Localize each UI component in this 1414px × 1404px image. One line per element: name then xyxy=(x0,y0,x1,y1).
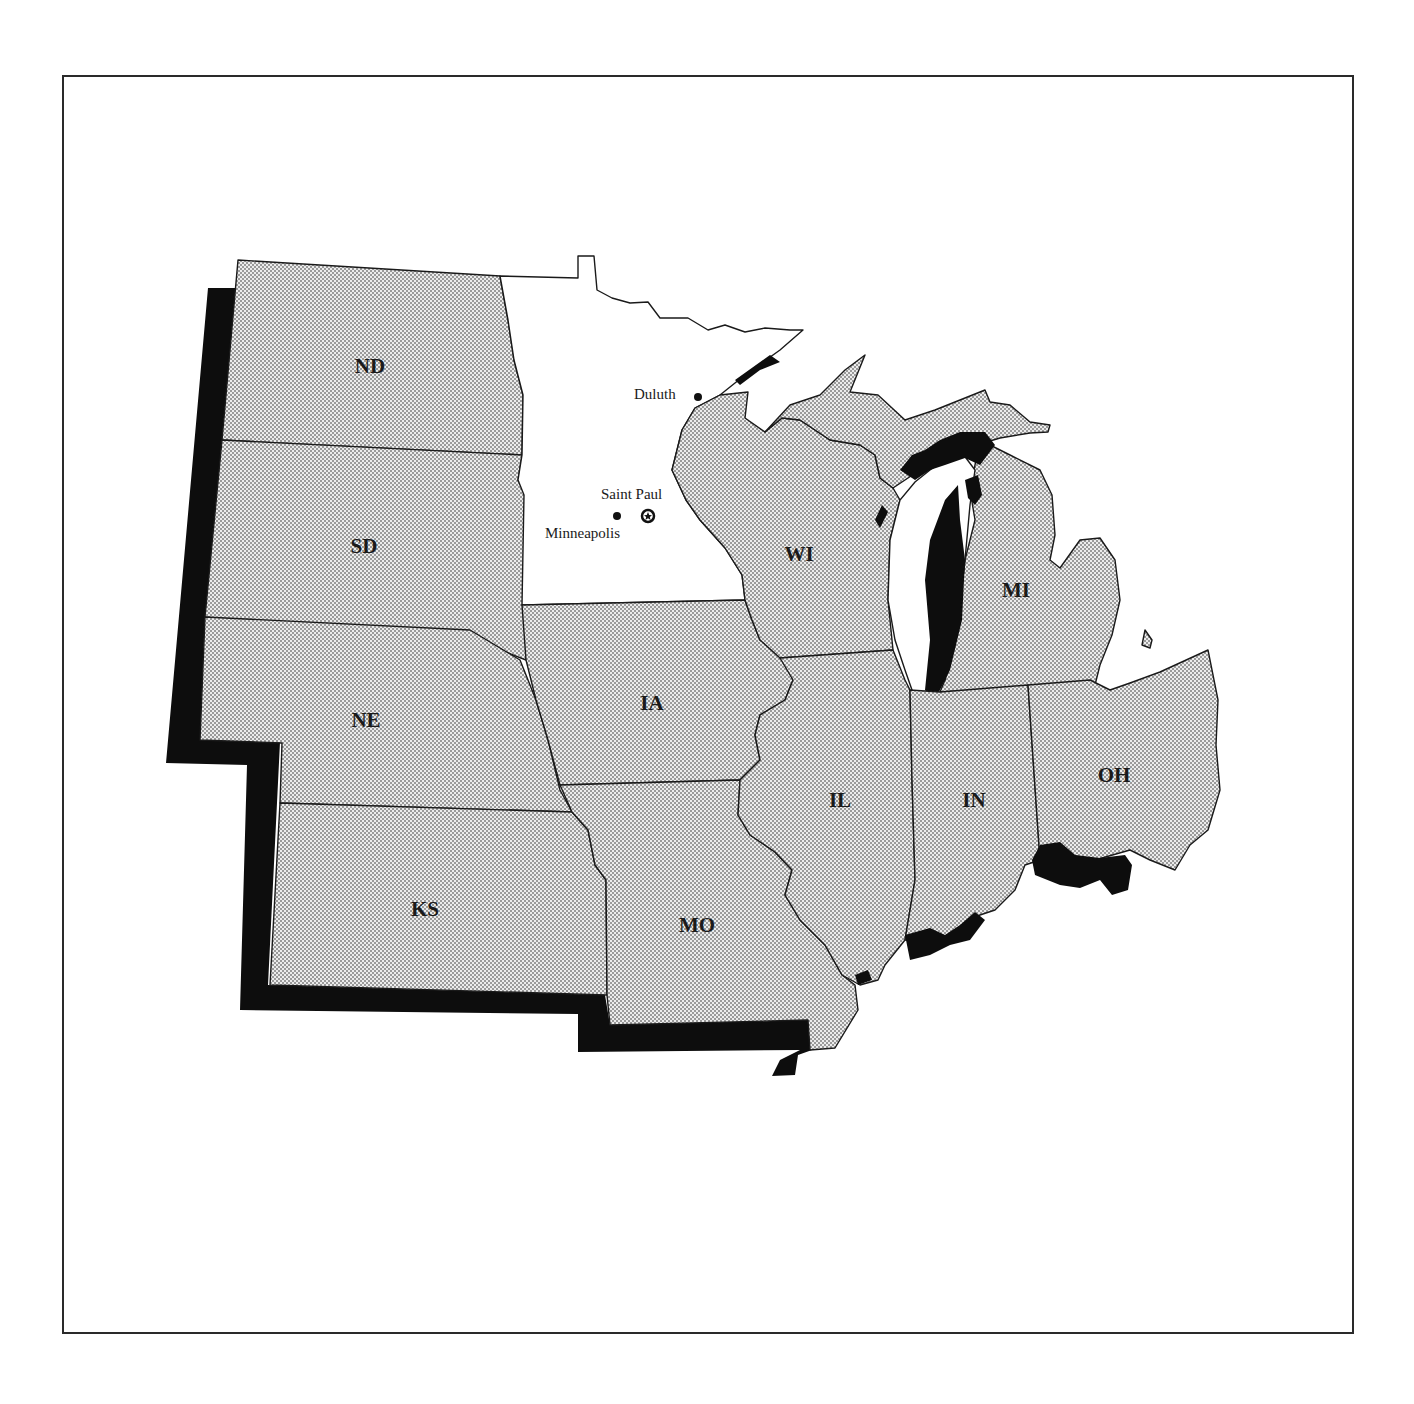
state-oh[interactable] xyxy=(1028,650,1220,870)
label-mi: MI xyxy=(1002,578,1030,602)
city-dot-icon xyxy=(694,393,702,401)
label-ia: IA xyxy=(640,691,664,715)
city-dot-icon xyxy=(613,512,621,520)
label-nd: ND xyxy=(355,354,385,378)
state-in[interactable] xyxy=(905,685,1040,940)
label-wi: WI xyxy=(784,542,813,566)
city-label-saint-paul: Saint Paul xyxy=(601,486,662,502)
label-ks: KS xyxy=(411,897,439,921)
label-sd: SD xyxy=(351,534,378,558)
midwest-map: ND SD NE KS IA MO WI IL MI IN OH Duluth … xyxy=(0,0,1414,1404)
city-label-minneapolis: Minneapolis xyxy=(545,525,620,541)
label-in: IN xyxy=(962,788,985,812)
city-label-duluth: Duluth xyxy=(634,386,676,402)
label-mo: MO xyxy=(679,913,715,937)
label-oh: OH xyxy=(1098,763,1131,787)
label-ne: NE xyxy=(351,708,380,732)
label-il: IL xyxy=(829,788,851,812)
